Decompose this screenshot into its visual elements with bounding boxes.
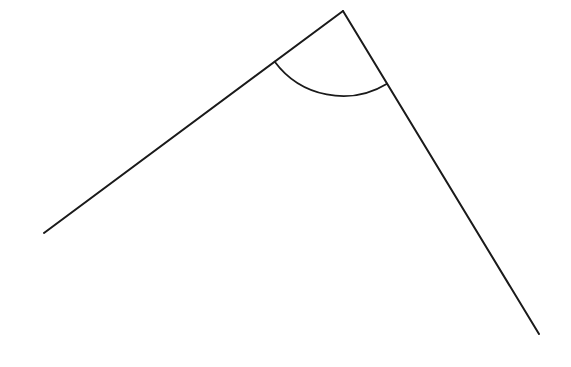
angle-figure-canvas [0,0,571,367]
figure-background [0,0,571,367]
angle-figure-svg [0,0,571,367]
